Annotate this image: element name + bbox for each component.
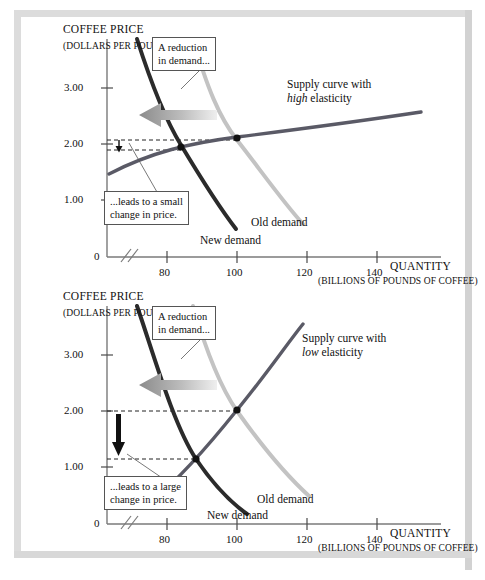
reduction-callout-line2: in demand... bbox=[158, 323, 210, 336]
x-axis-break-icon bbox=[121, 249, 138, 262]
y-tick-label-0: 0 bbox=[94, 517, 100, 529]
page-frame-right bbox=[465, 10, 472, 570]
price-change-callout: ...leads to a small change in price. bbox=[104, 191, 189, 225]
old-equilibrium-point bbox=[233, 406, 240, 413]
x-tick-label-80: 80 bbox=[159, 533, 170, 545]
reduction-callout-line1: A reduction bbox=[158, 310, 210, 323]
y-tick-label-3: 3.00 bbox=[64, 348, 83, 360]
chart-high-elasticity: COFFEE PRICE (DOLLARS PER POUND) bbox=[21, 17, 465, 284]
x-axis-subtitle: (BILLIONS OF POUNDS OF COFFEE) bbox=[318, 543, 478, 553]
demand-shift-arrow bbox=[139, 373, 217, 397]
y-tick-label-1: 1.00 bbox=[64, 460, 83, 472]
reduction-callout-line2: in demand... bbox=[158, 54, 210, 67]
x-tick-label-120: 120 bbox=[296, 533, 313, 545]
x-axis-break-icon bbox=[121, 516, 138, 529]
price-change-callout-line1: ...leads to a small bbox=[110, 195, 183, 208]
supply-elasticity-word: high bbox=[287, 92, 307, 104]
x-axis-title: QUANTITY bbox=[390, 260, 451, 272]
y-tick-label-2: 2.00 bbox=[64, 404, 83, 416]
x-tick-label-120: 120 bbox=[296, 266, 313, 278]
supply-curve-label-line2: high elasticity bbox=[287, 91, 371, 105]
price-drop-arrow-large bbox=[112, 414, 125, 456]
y-tick-label-2: 2.00 bbox=[64, 137, 83, 149]
supply-elasticity-word: low bbox=[302, 346, 319, 358]
supply-curve-label-line1: Supply curve with bbox=[287, 77, 371, 91]
new-equilibrium-point bbox=[177, 143, 184, 150]
x-tick-label-100: 100 bbox=[226, 533, 243, 545]
y-axis-title: COFFEE PRICE bbox=[63, 290, 144, 302]
supply-elasticity-rest: elasticity bbox=[307, 92, 351, 104]
supply-curve-label-line2: low elasticity bbox=[302, 345, 386, 359]
x-tick-label-100: 100 bbox=[226, 266, 243, 278]
price-change-callout: ...leads to a large change in price. bbox=[104, 476, 187, 510]
reduction-callout: A reduction in demand... bbox=[152, 37, 216, 71]
figure-page: COFFEE PRICE (DOLLARS PER POUND) bbox=[0, 0, 485, 580]
reduction-callout: A reduction in demand... bbox=[152, 306, 216, 340]
figure-canvas: COFFEE PRICE (DOLLARS PER POUND) bbox=[21, 17, 465, 551]
old-demand-label: Old demand bbox=[251, 215, 308, 229]
y-tick-label-3: 3.00 bbox=[64, 81, 83, 93]
supply-curve-label-line1: Supply curve with bbox=[302, 331, 386, 345]
y-axis-title: COFFEE PRICE bbox=[63, 23, 144, 35]
supply-curve-label: Supply curve with low elasticity bbox=[302, 331, 386, 360]
supply-curve-label: Supply curve with high elasticity bbox=[287, 77, 371, 106]
chart-low-elasticity: COFFEE PRICE (DOLLARS PER POUND) bbox=[21, 284, 465, 551]
reduction-callout-line1: A reduction bbox=[158, 41, 210, 54]
new-demand-label: New demand bbox=[200, 233, 261, 247]
y-tick-label-1: 1.00 bbox=[64, 193, 83, 205]
y-tick-label-0: 0 bbox=[94, 250, 100, 262]
demand-shift-arrow bbox=[139, 103, 217, 127]
price-drop-arrow-small bbox=[116, 140, 123, 153]
x-axis-title: QUANTITY bbox=[390, 527, 451, 539]
old-equilibrium-point bbox=[233, 134, 240, 141]
price-change-callout-line1: ...leads to a large bbox=[110, 480, 181, 493]
page-frame-left bbox=[14, 10, 21, 558]
new-equilibrium-point bbox=[192, 455, 199, 462]
old-demand-label: Old demand bbox=[257, 492, 314, 506]
price-change-callout-line2: change in price. bbox=[110, 208, 183, 221]
x-tick-label-80: 80 bbox=[159, 266, 170, 278]
price-change-callout-line2: change in price. bbox=[110, 493, 181, 506]
page-frame-top bbox=[14, 10, 472, 17]
supply-elasticity-rest: elasticity bbox=[319, 346, 363, 358]
new-demand-label: New demand bbox=[207, 508, 268, 522]
supply-curve bbox=[153, 324, 303, 500]
